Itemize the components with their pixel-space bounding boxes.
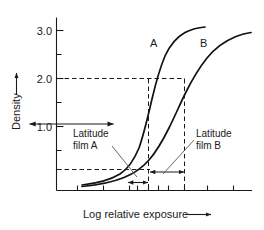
latitude-a-label-line2: film A <box>73 140 98 151</box>
x-axis-ticks <box>78 186 234 191</box>
annotation-latitude-film-b: Latitude film B <box>163 128 232 174</box>
curves-group <box>82 27 251 187</box>
curve-labels-group: A B <box>150 37 207 49</box>
latitude-a-leader-line <box>112 146 137 177</box>
x-axis-title-group: Log relative exposure <box>83 208 211 220</box>
curve-film-a <box>82 27 205 185</box>
y-axis-title: Density <box>10 93 22 130</box>
latitude-b-leader-line <box>163 140 194 174</box>
latitude-arrows-group <box>128 172 184 183</box>
y-tick-label-1-0: 1.0 <box>37 121 52 133</box>
latitude-b-label-line1: Latitude <box>196 128 232 139</box>
latitude-a-label-line1: Latitude <box>73 128 109 139</box>
curve-film-b <box>82 33 251 187</box>
y-tick-labels-group: 3.0 2.0 1.0 <box>37 25 52 133</box>
latitude-b-label-line2: film B <box>196 140 221 151</box>
characteristic-curve-figure: A B Latitude film A Latitude film B 3.0 … <box>0 0 264 230</box>
y-tick-label-3-0: 3.0 <box>37 25 52 37</box>
curve-label-b: B <box>200 37 207 49</box>
chart-canvas: A B Latitude film A Latitude film B 3.0 … <box>0 0 264 230</box>
y-tick-label-2-0: 2.0 <box>37 73 52 85</box>
y-axis-title-group: Density <box>10 73 22 130</box>
curve-label-a: A <box>150 37 158 49</box>
y-axis-ticks <box>57 31 64 170</box>
x-axis-title: Log relative exposure <box>83 208 188 220</box>
